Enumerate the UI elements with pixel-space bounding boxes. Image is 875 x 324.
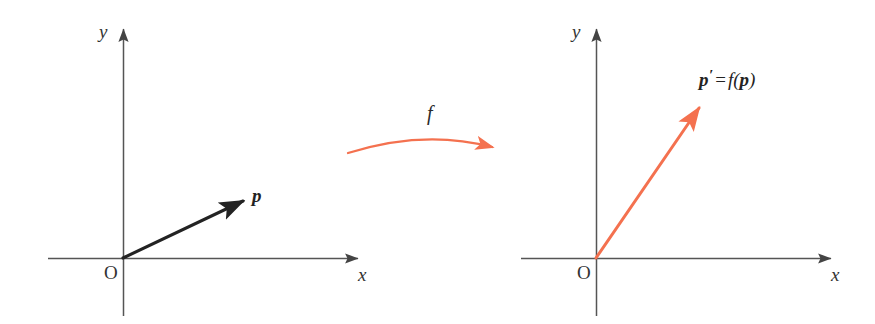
vector-p-prime-label: p′=f(p) bbox=[699, 68, 755, 89]
right-x-axis-label: x bbox=[831, 265, 839, 284]
vector-p-label: p bbox=[252, 186, 262, 205]
p-argument-symbol: p bbox=[740, 69, 750, 90]
left-x-axis-label: x bbox=[358, 265, 366, 284]
p-prime-symbol: p bbox=[699, 69, 709, 90]
image-vector-p-prime bbox=[596, 108, 699, 258]
source-vector-p bbox=[123, 201, 243, 258]
equals-sign: = bbox=[713, 69, 728, 90]
linear-map-diagram: y x O p f y x O p′=f(p) bbox=[0, 0, 875, 324]
mapping-curve bbox=[348, 139, 492, 153]
left-axes bbox=[48, 29, 358, 316]
mapping-arrow-f bbox=[348, 139, 492, 153]
right-axes bbox=[521, 29, 831, 316]
vector-p-shaft bbox=[123, 201, 243, 258]
left-origin-label: O bbox=[104, 263, 118, 282]
right-origin-label: O bbox=[577, 263, 591, 282]
diagram-canvas bbox=[0, 0, 875, 324]
right-y-axis-label: y bbox=[572, 22, 580, 41]
vector-p-prime-shaft bbox=[596, 108, 699, 258]
left-y-axis-label: y bbox=[99, 22, 107, 41]
close-paren: ) bbox=[749, 69, 755, 90]
mapping-function-label: f bbox=[427, 103, 433, 123]
